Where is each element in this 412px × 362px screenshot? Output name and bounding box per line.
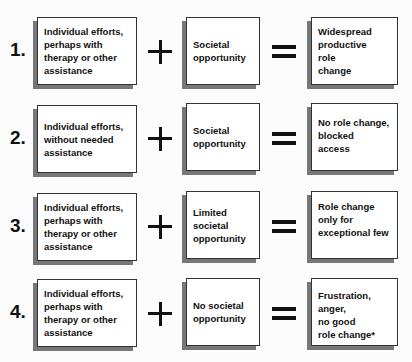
plus-icon [148, 127, 172, 151]
equals-icon [272, 132, 296, 145]
individual-efforts-box: Individual efforts, perhaps with therapy… [37, 17, 137, 85]
societal-opportunity-text: Societal opportunity [193, 124, 246, 150]
outcome-text: Widespread productive role change [318, 25, 372, 77]
societal-opportunity-text: Societal opportunity [193, 38, 246, 64]
societal-opportunity-box: Societal opportunity [186, 17, 260, 85]
outcome-text: No role change, blocked access [318, 116, 389, 155]
individual-efforts-box: Individual efforts, perhaps with therapy… [37, 193, 137, 261]
individual-efforts-box: Individual efforts, without needed assis… [37, 105, 137, 173]
individual-efforts-text: Individual efforts, perhaps with therapy… [44, 201, 123, 253]
equals-icon [272, 307, 296, 320]
individual-efforts-box: Individual efforts, perhaps with therapy… [37, 279, 137, 347]
equation-row-3: 3. Individual efforts, perhaps with ther… [0, 193, 412, 261]
societal-opportunity-text: Limited societal opportunity [193, 206, 246, 245]
row-number: 4. [10, 301, 26, 323]
outcome-text: Role change only for exceptional few [318, 200, 389, 239]
equation-row-1: 1. Individual efforts, perhaps with ther… [0, 17, 412, 85]
row-number: 2. [10, 127, 26, 149]
row-number: 3. [10, 215, 26, 237]
row-number: 1. [10, 39, 26, 61]
plus-icon [148, 302, 172, 326]
plus-icon [148, 40, 172, 64]
societal-opportunity-box: Societal opportunity [186, 103, 260, 171]
equation-row-4: 4. Individual efforts, perhaps with ther… [0, 279, 412, 347]
societal-opportunity-box: Limited societal opportunity [186, 191, 260, 259]
societal-opportunity-box: No societal opportunity [186, 278, 260, 346]
outcome-text: Frustration, anger, no good role change* [318, 289, 391, 341]
equals-icon [272, 45, 296, 58]
individual-efforts-text: Individual efforts, without needed assis… [44, 120, 123, 159]
individual-efforts-text: Individual efforts, perhaps with therapy… [44, 25, 123, 77]
plus-icon [148, 215, 172, 239]
equals-icon [272, 220, 296, 233]
individual-efforts-text: Individual efforts, perhaps with therapy… [44, 287, 123, 339]
outcome-box: Widespread productive role change [311, 17, 398, 85]
outcome-box: No role change, blocked access [311, 103, 398, 171]
outcome-box: Frustration, anger, no good role change* [311, 278, 398, 346]
outcome-box: Role change only for exceptional few [311, 191, 398, 259]
societal-opportunity-text: No societal opportunity [193, 299, 246, 325]
equation-row-2: 2. Individual efforts, without needed as… [0, 105, 412, 173]
